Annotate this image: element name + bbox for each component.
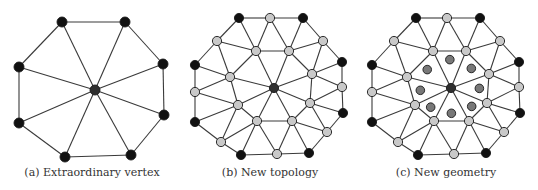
mesh-edge [131, 115, 164, 155]
edge-vertex [265, 13, 274, 22]
figure-canvas [0, 0, 538, 190]
edge-vertex [318, 36, 327, 45]
original-vertex [190, 117, 199, 126]
original-vertex [298, 13, 307, 22]
mesh-edge [241, 154, 277, 155]
mesh-edge [372, 65, 407, 77]
edge-vertex [190, 87, 199, 96]
mesh-edge [289, 41, 323, 51]
edge-vertex [389, 36, 398, 45]
caption-a: (a) Extraordinary vertex [24, 166, 159, 179]
mesh-edge [289, 18, 303, 51]
extraordinary-vertex [269, 83, 278, 92]
original-vertex [57, 17, 67, 27]
edge-vertex [272, 149, 281, 158]
original-vertex [14, 118, 24, 128]
inner-vertex [402, 72, 411, 81]
inner-vertex [410, 100, 419, 109]
original-vertex [234, 13, 243, 22]
edge-vertex [499, 127, 508, 136]
mesh-edge [394, 41, 433, 51]
face-point [467, 102, 476, 111]
panel-new-geometry [367, 13, 524, 159]
mesh-edge [270, 18, 289, 51]
mesh-edge [256, 51, 274, 88]
mesh-edge [230, 51, 256, 77]
inner-vertex [305, 98, 314, 107]
inner-vertex [429, 116, 438, 125]
mesh-edge [257, 88, 274, 121]
original-vertex [14, 62, 24, 72]
inner-vertex [307, 69, 316, 78]
mesh-edge [394, 41, 407, 77]
panel-extraordinary-vertex [14, 17, 169, 162]
mesh-edge [125, 22, 163, 64]
original-vertex [475, 13, 484, 22]
caption-c: (c) New geometry [396, 166, 496, 179]
mesh-edge [65, 90, 95, 157]
original-vertex [515, 108, 524, 117]
mesh-edge [239, 18, 256, 51]
original-vertex [190, 60, 199, 69]
edge-vertex [322, 127, 331, 136]
original-vertex [158, 59, 168, 69]
mesh-edge [466, 18, 480, 51]
original-vertex [367, 117, 376, 126]
mesh-edge [434, 121, 454, 154]
extraordinary-vertex [90, 85, 100, 95]
mesh-edge [238, 88, 274, 105]
original-vertex [126, 150, 136, 160]
mesh-edge [257, 121, 277, 154]
original-vertex [367, 60, 376, 69]
mesh-edge [195, 77, 230, 92]
mesh-edge [19, 123, 65, 157]
edge-vertex [216, 137, 225, 146]
inner-vertex [225, 72, 234, 81]
face-point [426, 103, 435, 112]
face-point [416, 86, 425, 95]
panel-new-topology [190, 13, 347, 159]
mesh-edge [372, 77, 407, 92]
caption-b: (b) New topology [222, 166, 318, 179]
mesh-edge [217, 41, 256, 51]
original-vertex [481, 148, 490, 157]
inner-vertex [251, 46, 260, 55]
inner-vertex [287, 116, 296, 125]
face-point [475, 84, 484, 93]
mesh-edge [447, 18, 466, 51]
extraordinary-vertex [446, 83, 455, 92]
mesh-edge [466, 41, 500, 51]
mesh-edge [274, 88, 310, 103]
original-vertex [60, 152, 70, 162]
mesh-edge [256, 18, 270, 51]
original-vertex [120, 17, 130, 27]
mesh-edge [277, 121, 292, 154]
face-point [446, 55, 455, 64]
mesh-edge [19, 67, 95, 90]
edge-vertex [212, 36, 221, 45]
mesh-edge [312, 41, 323, 74]
inner-vertex [233, 100, 242, 109]
original-vertex [236, 150, 245, 159]
inner-vertex [252, 116, 261, 125]
mesh-edge [217, 41, 230, 77]
original-vertex [304, 148, 313, 157]
edge-vertex [367, 87, 376, 96]
original-vertex [159, 110, 169, 120]
mesh-edge [95, 90, 164, 115]
face-point [467, 64, 476, 73]
original-vertex [338, 108, 347, 117]
inner-vertex [464, 116, 473, 125]
mesh-edge [487, 87, 519, 103]
original-vertex [514, 57, 523, 66]
mesh-edge [433, 18, 447, 51]
inner-vertex [484, 69, 493, 78]
mesh-edge [489, 41, 500, 74]
mesh-edge [274, 74, 312, 88]
mesh-edge [407, 77, 451, 88]
mesh-edge [95, 90, 131, 155]
mesh-edge [62, 22, 95, 90]
original-vertex [411, 13, 420, 22]
mesh-edge [454, 121, 469, 154]
mesh-edge [163, 64, 164, 115]
